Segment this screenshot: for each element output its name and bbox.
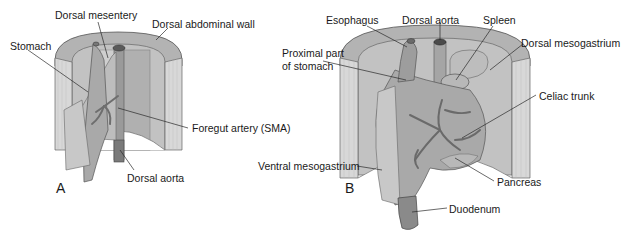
label-stomach: Stomach	[10, 40, 51, 52]
label-celiac-trunk: Celiac trunk	[539, 90, 594, 102]
panel-b-artwork	[340, 25, 530, 229]
label-proximal-stomach-line1: Proximal part	[282, 47, 344, 59]
label-dorsal-aorta-a: Dorsal aorta	[127, 172, 184, 184]
label-dorsal-mesogastrium: Dorsal mesogastrium	[521, 37, 620, 49]
label-pancreas: Pancreas	[497, 176, 541, 188]
diagram-artwork	[0, 0, 629, 235]
label-foregut-artery: Foregut artery (SMA)	[192, 122, 291, 134]
panel-letter-a: A	[56, 180, 65, 196]
label-esophagus: Esophagus	[326, 14, 379, 26]
panel-letter-b: B	[345, 180, 354, 196]
label-ventral-mesogastrium: Ventral mesogastrium	[258, 160, 360, 172]
label-dorsal-abdominal-wall: Dorsal abdominal wall	[152, 18, 255, 30]
panel-a-artwork	[55, 32, 182, 182]
label-dorsal-aorta-b: Dorsal aorta	[402, 14, 459, 26]
embryology-figure: Dorsal mesentery Dorsal abdominal wall S…	[0, 0, 629, 235]
label-proximal-stomach-line2: of stomach	[282, 60, 333, 72]
label-dorsal-mesentery: Dorsal mesentery	[55, 9, 137, 21]
label-spleen: Spleen	[483, 14, 516, 26]
label-duodenum: Duodenum	[449, 203, 500, 215]
